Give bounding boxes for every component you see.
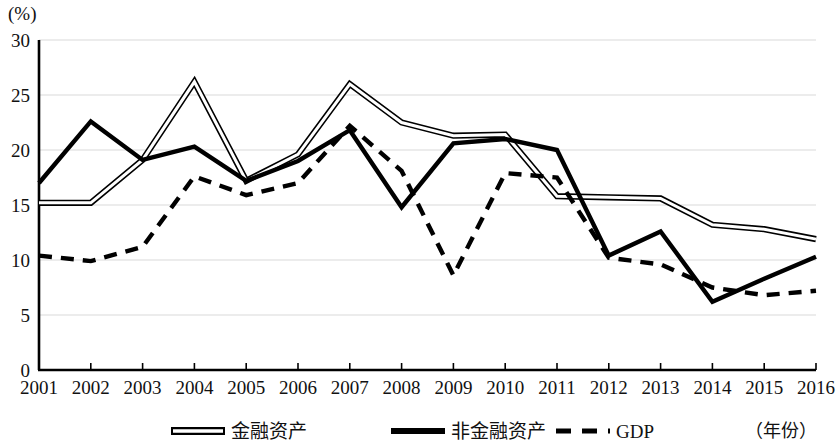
y-axis-tick-label: 20 (0, 141, 30, 160)
x-axis-tick-label: 2001 (12, 378, 66, 397)
x-axis-tick-label: 2016 (789, 378, 840, 397)
x-axis-tick-label: 2003 (116, 378, 170, 397)
legend-item: 非金融资产 (390, 418, 546, 442)
x-axis-tick-label: 2005 (219, 378, 273, 397)
x-axis-tick-label: 2009 (426, 378, 480, 397)
series-line-1 (39, 121, 816, 301)
x-axis-tick-label: 2007 (323, 378, 377, 397)
legend-swatch-solid-thick (390, 424, 446, 438)
chart-legend: 金融资产非金融资产GDP (0, 410, 821, 442)
x-axis-tick-label: 2006 (271, 378, 325, 397)
y-axis-tick-label: 25 (0, 86, 30, 105)
y-axis-tick-label: 5 (0, 306, 30, 325)
legend-label: 非金融资产 (451, 422, 546, 441)
y-axis-tick-label: 30 (0, 31, 30, 50)
x-axis-tick-label: 2013 (634, 378, 688, 397)
x-axis-tick-label: 2010 (478, 378, 532, 397)
x-axis-tick-label: 2008 (375, 378, 429, 397)
legend-item: 金融资产 (170, 418, 307, 442)
series-line-outer-0 (39, 82, 816, 239)
x-axis-tick-label: 2014 (685, 378, 739, 397)
legend-label: GDP (616, 422, 654, 441)
y-axis-tick-label: 15 (0, 196, 30, 215)
legend-label: 金融资产 (231, 422, 307, 441)
y-axis-tick-label: 10 (0, 251, 30, 270)
x-axis-tick-label: 2015 (737, 378, 791, 397)
legend-item: GDP (555, 418, 654, 442)
x-axis-tick-label: 2012 (582, 378, 636, 397)
x-axis-tick-label: 2004 (167, 378, 221, 397)
legend-swatch-double-line (170, 424, 226, 438)
x-axis-tick-label: 2011 (530, 378, 584, 397)
x-axis-tick-label: 2002 (64, 378, 118, 397)
series-line-2 (39, 126, 816, 295)
legend-swatch-dashed (555, 424, 611, 438)
